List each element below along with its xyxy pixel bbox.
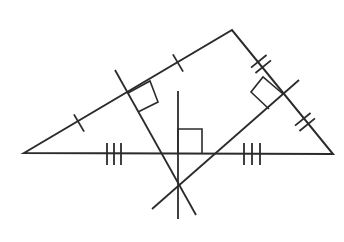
right-angle-AB xyxy=(128,81,158,112)
triangle-circumcenter-diagram xyxy=(0,0,344,242)
diagram-canvas xyxy=(0,0,344,242)
right-angle-BC xyxy=(251,77,283,109)
perpendicular-bisectors xyxy=(115,70,299,219)
bisector-side-BC xyxy=(152,80,299,209)
right-angle-AC xyxy=(178,129,202,153)
congruence-tick-marks xyxy=(74,54,315,165)
bisector-side-AB xyxy=(115,70,196,215)
